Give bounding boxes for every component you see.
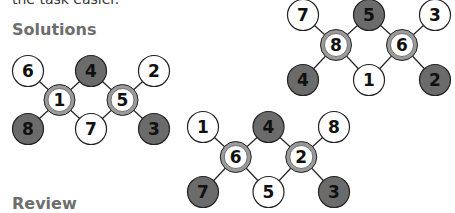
node-label: 5	[363, 5, 375, 25]
node-5: 5	[354, 0, 385, 31]
node-label: 2	[148, 61, 160, 81]
node-2: 2	[139, 56, 170, 87]
node-6: 6	[220, 142, 251, 173]
node-label: 1	[197, 117, 209, 137]
node-4: 4	[253, 112, 284, 143]
node-3: 3	[319, 177, 350, 208]
node-label: 4	[85, 61, 97, 81]
node-3: 3	[139, 114, 170, 145]
node-4: 4	[288, 65, 319, 96]
node-label: 3	[328, 182, 340, 202]
node-7: 7	[188, 177, 219, 208]
node-label: 2	[295, 147, 307, 167]
diagram-solution-3: 14862753	[188, 112, 350, 208]
node-7: 7	[76, 114, 107, 145]
solution-diagrams: 642158737538641214862753	[0, 0, 455, 213]
node-5: 5	[107, 85, 138, 116]
node-label: 3	[429, 5, 441, 25]
node-label: 5	[117, 90, 129, 110]
node-label: 7	[85, 119, 97, 139]
node-5: 5	[253, 177, 284, 208]
node-7: 7	[288, 0, 319, 31]
diagram-solution-2: 75386412	[288, 0, 451, 96]
node-label: 6	[396, 35, 408, 55]
node-6: 6	[13, 56, 44, 87]
node-6: 6	[387, 30, 418, 61]
node-4: 4	[76, 56, 107, 87]
node-1: 1	[44, 85, 75, 116]
node-label: 2	[429, 70, 441, 90]
node-label: 8	[328, 117, 340, 137]
node-label: 1	[363, 70, 375, 90]
node-2: 2	[286, 142, 317, 173]
node-label: 4	[297, 70, 309, 90]
node-1: 1	[354, 65, 385, 96]
node-label: 7	[297, 5, 309, 25]
node-label: 7	[197, 182, 209, 202]
diagram-solution-1: 64215873	[13, 56, 170, 145]
node-2: 2	[420, 65, 451, 96]
node-8: 8	[321, 30, 352, 61]
node-label: 8	[330, 35, 342, 55]
node-label: 8	[22, 119, 34, 139]
node-label: 3	[148, 119, 160, 139]
node-label: 6	[230, 147, 242, 167]
node-8: 8	[319, 112, 350, 143]
node-8: 8	[13, 114, 44, 145]
node-1: 1	[188, 112, 219, 143]
node-label: 1	[54, 90, 66, 110]
node-3: 3	[420, 0, 451, 31]
node-label: 5	[263, 182, 275, 202]
node-label: 4	[263, 117, 275, 137]
node-label: 6	[22, 61, 34, 81]
